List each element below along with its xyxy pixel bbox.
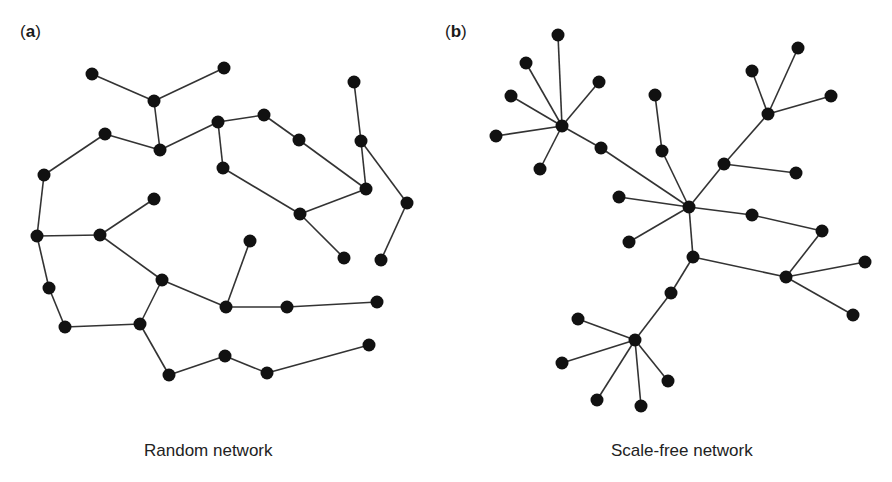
node	[847, 309, 860, 322]
edge	[354, 82, 361, 141]
edge	[786, 231, 822, 277]
node	[534, 163, 547, 176]
label-close-paren: )	[461, 22, 467, 41]
edge	[44, 134, 105, 175]
edge	[223, 168, 300, 214]
node	[244, 235, 257, 248]
node	[217, 162, 230, 175]
node	[490, 130, 503, 143]
node	[613, 191, 626, 204]
node	[261, 367, 274, 380]
edge	[752, 71, 768, 114]
node	[593, 76, 606, 89]
edge	[693, 257, 786, 277]
edge	[160, 122, 218, 150]
edge	[37, 236, 49, 288]
node	[360, 183, 373, 196]
edge	[154, 68, 224, 101]
node	[556, 357, 569, 370]
scale-free-network-nodes	[490, 29, 872, 413]
node	[338, 252, 351, 265]
edge	[786, 262, 865, 277]
node	[649, 89, 662, 102]
edge	[558, 35, 562, 126]
edge	[511, 96, 562, 126]
node	[43, 282, 56, 295]
edge	[154, 101, 160, 150]
node	[219, 350, 232, 363]
node	[38, 169, 51, 182]
node	[505, 90, 518, 103]
edge	[635, 340, 668, 381]
edge	[689, 207, 752, 215]
edge	[140, 324, 169, 375]
node	[762, 108, 775, 121]
node	[348, 76, 361, 89]
node	[31, 230, 44, 243]
label-letter: b	[451, 22, 461, 41]
node	[59, 321, 72, 334]
node	[683, 201, 696, 214]
edge	[689, 164, 724, 207]
node	[163, 369, 176, 382]
scale-free-network-edges	[496, 35, 865, 406]
edge	[65, 324, 140, 327]
node	[718, 158, 731, 171]
edge	[635, 340, 641, 406]
edge	[562, 82, 599, 126]
node	[825, 90, 838, 103]
node	[635, 400, 648, 413]
node	[212, 116, 225, 129]
node	[790, 167, 803, 180]
edge	[619, 197, 689, 207]
edge	[724, 114, 768, 164]
edge	[526, 63, 562, 126]
edge	[218, 115, 264, 122]
node	[294, 208, 307, 221]
node	[156, 274, 169, 287]
node	[94, 229, 107, 242]
random-network-edges	[37, 68, 407, 375]
node	[99, 128, 112, 141]
node	[134, 318, 147, 331]
edge	[169, 356, 225, 375]
node	[572, 313, 585, 326]
node	[154, 144, 167, 157]
node	[746, 65, 759, 78]
node	[595, 142, 608, 155]
edge	[496, 126, 562, 136]
node	[662, 375, 675, 388]
edge	[562, 126, 601, 148]
node	[148, 95, 161, 108]
node	[401, 197, 414, 210]
node	[552, 29, 565, 42]
edge	[100, 199, 154, 235]
node	[293, 134, 306, 147]
node	[665, 287, 678, 300]
node	[656, 145, 669, 158]
node	[591, 394, 604, 407]
node	[687, 251, 700, 264]
edge	[92, 74, 154, 101]
node	[355, 135, 368, 148]
label-close-paren: )	[35, 22, 41, 41]
edge	[540, 126, 562, 169]
edge	[381, 203, 407, 260]
caption-random-network: Random network	[144, 441, 273, 461]
edge	[689, 207, 693, 257]
edge	[299, 140, 366, 189]
edge	[578, 319, 635, 340]
edge	[300, 214, 344, 258]
edge	[225, 356, 267, 373]
edge	[162, 280, 226, 307]
edge	[267, 345, 369, 373]
edge	[562, 340, 635, 363]
node	[218, 62, 231, 75]
panel-label-b: (b)	[445, 22, 467, 42]
node	[623, 236, 636, 249]
edge	[287, 302, 377, 307]
edge	[218, 122, 223, 168]
node	[86, 68, 99, 81]
edge	[361, 141, 366, 189]
node	[746, 209, 759, 222]
